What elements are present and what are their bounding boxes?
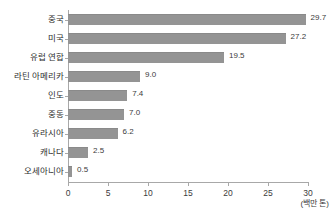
bar	[68, 109, 124, 120]
bar	[68, 128, 118, 139]
x-axis-tick-label: 20	[218, 188, 238, 198]
y-axis-tick	[65, 115, 68, 116]
y-axis-tick	[65, 172, 68, 173]
bar-value-label: 6.2	[123, 126, 134, 137]
y-axis-tick	[65, 153, 68, 154]
y-axis-tick	[65, 96, 68, 97]
bar-value-label: 2.5	[93, 145, 104, 156]
bar-row: 19.5	[68, 52, 308, 63]
x-axis-tick	[68, 182, 69, 186]
y-axis-tick	[65, 39, 68, 40]
bar-row: 0.5	[68, 166, 308, 177]
bar-row: 6.2	[68, 128, 308, 139]
bar-row: 27.2	[68, 33, 308, 44]
bar-row: 7.0	[68, 109, 308, 120]
y-axis-tick	[65, 77, 68, 78]
bar-value-label: 27.2	[291, 31, 307, 42]
category-label: 캐나다	[0, 147, 64, 158]
x-axis-tick	[308, 182, 309, 186]
category-label: 라틴 아메리카	[0, 71, 64, 82]
x-axis-tick-label: 15	[178, 188, 198, 198]
category-label: 오세아니아	[0, 166, 64, 177]
bar	[68, 166, 72, 177]
x-axis-tick-label: 25	[258, 188, 278, 198]
bar-value-label: 29.7	[311, 12, 327, 23]
x-axis-tick-label: 5	[98, 188, 118, 198]
bar	[68, 14, 306, 25]
category-label: 인도	[0, 90, 64, 101]
bar-row: 9.0	[68, 71, 308, 82]
bar-value-label: 7.0	[129, 107, 140, 118]
bar-row: 29.7	[68, 14, 308, 25]
y-axis-tick	[65, 58, 68, 59]
bar-row: 2.5	[68, 147, 308, 158]
category-label: 중국	[0, 14, 64, 25]
bar-row: 7.4	[68, 90, 308, 101]
bar-value-label: 0.5	[77, 164, 88, 175]
category-label: 미국	[0, 33, 64, 44]
x-axis-tick-label: 30	[298, 188, 318, 198]
category-label: 중동	[0, 109, 64, 120]
bar-value-label: 7.4	[132, 88, 143, 99]
bar-value-label: 9.0	[145, 69, 156, 80]
bar-chart: 중국미국유럽 연합라틴 아메리카인도중동유라시아캐나다오세아니아 29.727.…	[0, 0, 333, 214]
bar	[68, 90, 127, 101]
x-axis-tick	[148, 182, 149, 186]
category-axis-labels: 중국미국유럽 연합라틴 아메리카인도중동유라시아캐나다오세아니아	[0, 10, 64, 182]
x-axis-tick	[188, 182, 189, 186]
category-label: 유라시아	[0, 128, 64, 139]
y-axis-tick	[65, 134, 68, 135]
plot-area: 29.727.219.59.07.47.06.22.50.5	[68, 10, 308, 182]
x-axis-tick	[108, 182, 109, 186]
x-axis-tick	[228, 182, 229, 186]
x-axis-tick	[268, 182, 269, 186]
category-label: 유럽 연합	[0, 52, 64, 63]
x-axis-unit-label: (백만 톤)	[300, 199, 329, 209]
bar	[68, 147, 88, 158]
bar	[68, 52, 224, 63]
bar-value-label: 19.5	[229, 50, 245, 61]
x-axis-tick-label: 10	[138, 188, 158, 198]
y-axis-tick	[65, 20, 68, 21]
x-axis-tick-label: 0	[58, 188, 78, 198]
bar	[68, 33, 286, 44]
bar	[68, 71, 140, 82]
